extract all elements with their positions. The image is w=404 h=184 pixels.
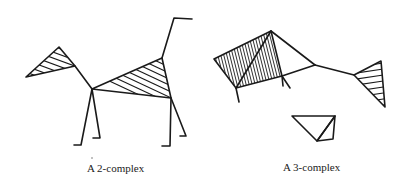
complexes-diagram (0, 0, 404, 184)
back-leg-right (171, 98, 186, 136)
edge-bottom (282, 65, 315, 76)
caption-2-complex: A 2-complex (87, 162, 144, 174)
tail-edges (162, 18, 192, 58)
front-leg-left (74, 89, 92, 145)
body-triangle (90, 12, 180, 114)
three-complex-figure (203, 20, 390, 141)
stray-dot (91, 157, 92, 158)
back-leg-left (162, 98, 171, 146)
tetrahedron (203, 20, 290, 102)
edge-connector (315, 65, 354, 75)
two-complex-figure (20, 12, 192, 146)
neck-edge (75, 66, 92, 89)
caption-3-complex: A 3-complex (283, 161, 340, 173)
front-leg-right (92, 89, 100, 138)
separate-triangles (292, 116, 335, 141)
head-triangle (20, 28, 80, 92)
right-triangle (350, 61, 390, 110)
